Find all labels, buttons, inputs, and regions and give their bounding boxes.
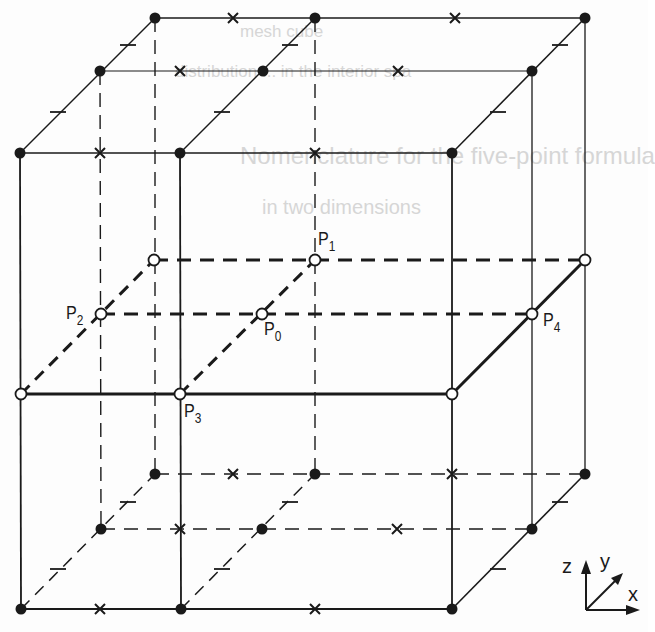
bottom-layer xyxy=(21,474,585,609)
node-back-left xyxy=(149,255,160,266)
node-P1 xyxy=(310,255,321,266)
node-front-right xyxy=(447,389,458,400)
label-P1-sub: 1 xyxy=(329,238,336,254)
label-P1-base: P xyxy=(318,228,329,249)
label-P3-sub: 3 xyxy=(195,410,202,426)
label-P0: P0 xyxy=(264,319,281,343)
x-arrow-icon xyxy=(626,605,640,615)
node-back-right xyxy=(580,255,591,266)
label-P3-base: P xyxy=(184,400,195,421)
label-P2-sub: 2 xyxy=(77,312,84,328)
label-P3: P3 xyxy=(184,401,201,425)
axis-label-z: z xyxy=(562,556,572,576)
label-P1: P1 xyxy=(318,229,335,253)
axis-label-x: x xyxy=(628,584,638,604)
label-P2-base: P xyxy=(66,302,77,323)
axis-label-y: y xyxy=(600,551,610,571)
label-P4: P4 xyxy=(543,310,560,334)
node-P2 xyxy=(96,309,107,320)
node-front-left xyxy=(16,389,27,400)
label-P2: P2 xyxy=(66,303,83,327)
node-P3 xyxy=(175,389,186,400)
z-arrow-icon xyxy=(581,560,591,574)
label-P0-sub: 0 xyxy=(275,328,282,344)
middle-layer xyxy=(21,260,585,394)
label-P4-sub: 4 xyxy=(554,319,561,335)
diagonal-tick-marks xyxy=(50,45,568,569)
top-layer xyxy=(20,18,585,153)
label-P4-base: P xyxy=(543,309,554,330)
open-nodes xyxy=(16,255,591,400)
label-P0-base: P xyxy=(264,318,275,339)
node-P4 xyxy=(527,309,538,320)
